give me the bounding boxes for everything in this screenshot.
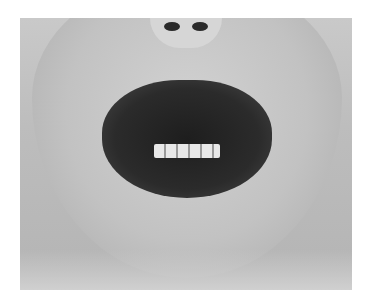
neck-collar-area — [20, 250, 352, 290]
lip-lesion-area — [102, 80, 272, 198]
clinical-photo — [20, 18, 352, 290]
right-nostril — [192, 22, 208, 31]
left-nostril — [164, 22, 180, 31]
teeth — [154, 144, 220, 158]
